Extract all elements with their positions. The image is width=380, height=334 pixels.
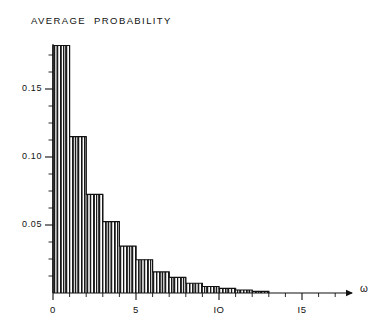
- histogram-bar: [198, 283, 202, 293]
- histogram-bar: [182, 277, 186, 293]
- histogram-bar: [173, 277, 177, 293]
- histogram-bar: [111, 222, 115, 293]
- histogram-figure: AVERAGE PROBABILITY 0.050.100.15 05IOI5 …: [0, 0, 380, 334]
- histogram-bar: [211, 286, 215, 293]
- histogram-bar: [186, 283, 190, 293]
- histogram-bar: [161, 272, 165, 293]
- histogram-bar: [57, 45, 61, 293]
- histogram-bar: [178, 277, 182, 293]
- histogram-bar: [153, 272, 157, 293]
- y-axis-tick-label: 0.10: [8, 151, 42, 161]
- histogram-bar: [82, 137, 86, 293]
- histogram-bar: [115, 222, 119, 293]
- histogram-bar: [70, 137, 74, 293]
- histogram-bar: [95, 194, 99, 293]
- histogram-bar: [231, 288, 235, 293]
- histogram-bar: [74, 137, 78, 293]
- histogram-bar: [202, 286, 206, 293]
- histogram-bar: [128, 246, 132, 293]
- histogram-bar: [78, 137, 82, 293]
- histogram-bar: [148, 260, 152, 293]
- histogram-bar: [61, 45, 65, 293]
- histogram-bar: [65, 45, 69, 293]
- histogram-bar: [53, 45, 57, 293]
- x-axis-label: ω: [360, 283, 368, 294]
- histogram-bar: [219, 288, 223, 293]
- histogram-bar: [165, 272, 169, 293]
- y-axis-tick-label: 0.05: [8, 219, 42, 229]
- x-axis-tick-label: 0: [43, 304, 63, 315]
- x-axis-tick-label: I5: [292, 304, 312, 315]
- histogram-bar: [194, 283, 198, 293]
- histogram-bar: [140, 260, 144, 293]
- histogram-bar: [227, 288, 231, 293]
- histogram-bar: [86, 194, 90, 293]
- x-axis-tick-label: IO: [209, 304, 229, 315]
- x-axis-tick-label: 5: [126, 304, 146, 315]
- histogram-bar: [90, 194, 94, 293]
- histogram-bar: [190, 283, 194, 293]
- histogram-bar: [124, 246, 128, 293]
- histogram-bar: [103, 222, 107, 293]
- x-axis-arrowhead: [346, 290, 353, 296]
- y-axis-tick-label: 0.15: [8, 83, 42, 93]
- histogram-bar: [207, 286, 211, 293]
- plot-canvas: [0, 0, 380, 334]
- histogram-bar: [215, 286, 219, 293]
- histogram-bar: [169, 277, 173, 293]
- histogram-bar: [136, 260, 140, 293]
- histogram-bar: [119, 246, 123, 293]
- histogram-bar: [132, 246, 136, 293]
- bars-layer: [53, 45, 269, 293]
- histogram-bar: [223, 288, 227, 293]
- histogram-bar: [107, 222, 111, 293]
- histogram-bar: [157, 272, 161, 293]
- histogram-bar: [144, 260, 148, 293]
- histogram-bar: [99, 194, 103, 293]
